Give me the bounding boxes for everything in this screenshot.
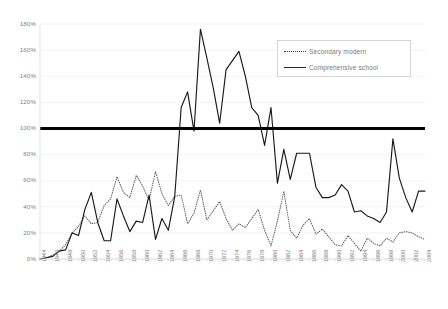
- legend-item-secondary-modern: Secondary modern: [283, 46, 366, 56]
- x-tick-label: 1944: [42, 250, 47, 262]
- x-tick-label: 2000: [401, 250, 406, 262]
- y-tick-label: 60%: [6, 177, 36, 183]
- legend-item-comprehensive-school: Comprehensive school: [283, 62, 378, 72]
- x-tick-label: 1960: [145, 250, 150, 262]
- x-tick-label: 1948: [68, 250, 73, 262]
- x-tick-label: 1998: [389, 250, 394, 262]
- x-tick-label: 1976: [247, 250, 252, 262]
- x-tick-label: 1956: [119, 250, 124, 262]
- x-tick-label: 1946: [55, 250, 60, 262]
- y-tick-label: 120%: [6, 99, 36, 105]
- legend-swatch-dotted-icon: [283, 47, 307, 55]
- y-tick-label: 140%: [6, 73, 36, 79]
- x-tick-label: 1964: [170, 250, 175, 262]
- x-tick-label: 1968: [196, 250, 201, 262]
- y-tick-label: 160%: [6, 47, 36, 53]
- x-tick-label: 1978: [260, 250, 265, 262]
- x-tick-label: 1974: [235, 250, 240, 262]
- x-tick-label: 1966: [183, 250, 188, 262]
- x-tick-label: 2004: [427, 250, 432, 262]
- x-tick-label: 1952: [93, 250, 98, 262]
- y-tick-label: 0%: [6, 256, 36, 262]
- x-tick-label: 1984: [299, 250, 304, 262]
- legend-swatch-solid-icon: [283, 63, 307, 71]
- y-tick-label: 20%: [6, 230, 36, 236]
- x-tick-label: 1986: [312, 250, 317, 262]
- y-tick-label: 180%: [6, 21, 36, 27]
- x-tick-label: 1996: [376, 250, 381, 262]
- x-tick-label: 1972: [222, 250, 227, 262]
- x-tick-label: 1988: [324, 250, 329, 262]
- chart-legend: Secondary modern Comprehensive school: [277, 40, 411, 77]
- x-tick-label: 1958: [132, 250, 137, 262]
- y-tick-label: 80%: [6, 151, 36, 157]
- x-tick-label: 1954: [106, 250, 111, 262]
- x-tick-label: 1962: [158, 250, 163, 262]
- x-tick-label: 1994: [363, 250, 368, 262]
- x-tick-label: 1992: [350, 250, 355, 262]
- legend-label-comprehensive-school: Comprehensive school: [309, 64, 378, 71]
- chart-container: 0%20%40%60%80%100%120%140%160%180% 19441…: [0, 0, 448, 309]
- x-tick-label: 1950: [81, 250, 86, 262]
- y-tick-label: 40%: [6, 204, 36, 210]
- legend-label-secondary-modern: Secondary modern: [309, 48, 366, 55]
- x-tick-label: 1980: [273, 250, 278, 262]
- x-tick-label: 1970: [209, 250, 214, 262]
- x-tick-label: 1982: [286, 250, 291, 262]
- y-tick-label: 100%: [6, 125, 36, 131]
- x-tick-label: 1990: [337, 250, 342, 262]
- x-tick-label: 2002: [414, 250, 419, 262]
